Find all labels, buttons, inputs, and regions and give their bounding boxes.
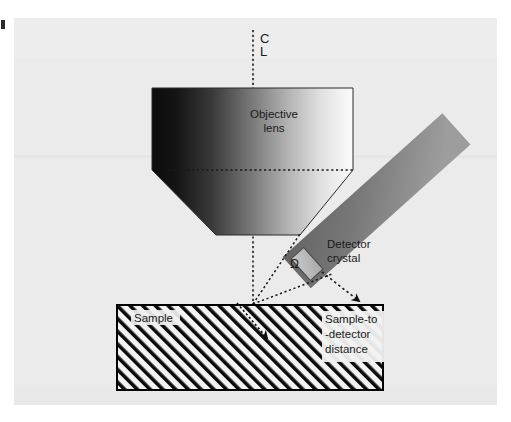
solid-angle-omega-label: Ω <box>290 257 299 271</box>
plate-band-top <box>14 18 497 58</box>
objective-lens-label-line2: lens <box>263 122 284 134</box>
centerline-l-label: L <box>260 44 267 59</box>
distance-label-line2: -detector <box>325 328 371 340</box>
detector-crystal-label-line1: Detector <box>327 238 371 250</box>
figure-root: C L Objective lens Detector crystal Ω Sa… <box>0 0 511 422</box>
sample-label: Sample <box>134 312 173 324</box>
detector-geometry-diagram: C L Objective lens Detector crystal Ω Sa… <box>0 0 511 422</box>
distance-label-line1: Sample-to <box>325 313 377 325</box>
objective-lens-label-line1: Objective <box>250 108 298 120</box>
detector-crystal-label-line2: crystal <box>327 252 360 264</box>
edge-tick-mark <box>1 20 5 29</box>
distance-label-line3: distance <box>325 343 368 355</box>
